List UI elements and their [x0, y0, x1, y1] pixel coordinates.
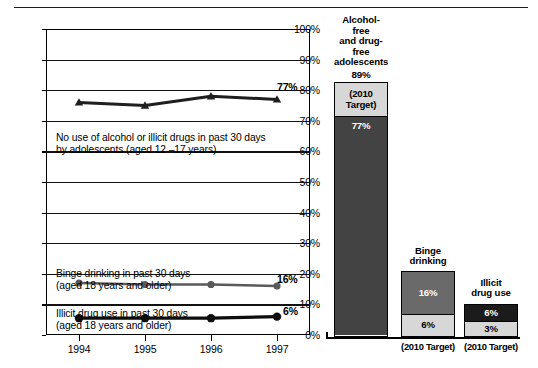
baseline-cap-left — [326, 332, 328, 338]
value-label-illicit-drug-use: 6% — [283, 306, 298, 317]
bar-chart-panel: Alcohol-free and drug-free adolescents 8… — [320, 0, 538, 368]
bar-segment-target-alcohol-free: (2010 Target) — [335, 83, 387, 117]
annotation-illicit-drug-use: Illicit drug use in past 30 days (aged 1… — [56, 308, 188, 332]
bar-segment-current-illicit-drug-use: 6% — [465, 305, 517, 322]
bar-segment-current-label-alcohol-free: 77% — [352, 121, 371, 132]
bar-label-alcohol-free: Alcohol-free and drug-free adolescents — [334, 15, 388, 68]
bar-segment-current-binge-drinking: 16% — [402, 272, 454, 315]
bar-group-illicit-drug-use: Illicit drug use 6% 3% — [464, 247, 518, 337]
bar-segment-target-illicit-drug-use: 3% — [465, 322, 517, 336]
bar-top-value-alcohol-free: 89% — [334, 69, 388, 80]
series-marker — [273, 312, 281, 320]
bar-label-illicit-drug-use: Illicit drug use — [464, 278, 518, 299]
bar-segment-current-alcohol-free: 77% — [335, 117, 387, 335]
x-axis-tick-mark — [79, 335, 80, 341]
annotation-binge-drinking: Binge drinking in past 30 days (aged 18 … — [56, 268, 190, 292]
bar-label-binge-drinking: Binge drinking — [401, 246, 455, 267]
bar-group-alcohol-free: Alcohol-free and drug-free adolescents 8… — [334, 37, 388, 337]
series-line — [79, 96, 277, 105]
bar-footnote-illicit-drug-use: (2010 Target) — [453, 341, 529, 352]
x-axis-tick-label: 1996 — [189, 344, 233, 355]
value-label-binge-drinking: 16% — [277, 274, 297, 285]
bar-baseline — [326, 337, 520, 339]
bar-segment-target-binge-drinking: 6% — [402, 315, 454, 336]
x-axis-tick-label: 1994 — [57, 344, 101, 355]
x-axis-tick-label: 1997 — [255, 344, 299, 355]
bar-stack-illicit-drug-use: 6% 3% — [464, 304, 518, 337]
y-axis-tick-mark — [42, 335, 46, 336]
series-marker — [207, 314, 215, 322]
x-axis-tick-mark — [145, 335, 146, 341]
figure-root: 0%10%20%30%40%50%60%70%80%90%100% 199419… — [0, 0, 538, 368]
bar-segment-target-label-binge-drinking: 6% — [421, 320, 434, 331]
bar-segment-target-label-alcohol-free: (2010 Target) — [346, 89, 376, 111]
line-chart-panel: 0%10%20%30%40%50%60%70%80%90%100% 199419… — [0, 20, 320, 368]
x-axis-tick-mark — [277, 335, 278, 341]
bar-segment-current-label-binge-drinking: 16% — [419, 288, 438, 299]
bar-group-binge-drinking: Binge drinking 16% 6% — [401, 217, 455, 337]
bar-segment-target-label-illicit-drug-use: 3% — [484, 324, 497, 335]
x-axis-tick-mark — [211, 335, 212, 341]
bar-stack-alcohol-free: (2010 Target) 77% — [334, 82, 388, 337]
series-marker — [207, 281, 214, 288]
annotation-no-use: No use of alcohol or illicit drugs in pa… — [56, 132, 266, 156]
value-label-no-use: 77% — [277, 82, 297, 93]
bar-segment-current-label-illicit-drug-use: 6% — [484, 308, 497, 319]
bar-stack-binge-drinking: 16% 6% — [401, 271, 455, 337]
x-axis-tick-label: 1995 — [123, 344, 167, 355]
